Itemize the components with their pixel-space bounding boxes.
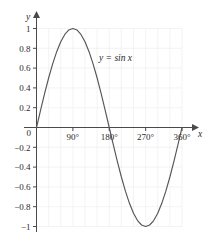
y-tick-label: 0.8 [19, 44, 31, 54]
chart-canvas: 90°180°270°360° 10.80.60.40.2−0.2−0.4−0.… [0, 0, 210, 237]
x-tick-label: 270° [137, 132, 155, 142]
x-tick-label: 360° [173, 132, 191, 142]
y-tick-label: −0.6 [14, 182, 31, 192]
y-tick-label: −0.4 [14, 162, 31, 172]
x-tick-label: 90° [67, 132, 80, 142]
y-tick-label: 0.6 [19, 63, 31, 73]
y-tick-label: 1 [26, 24, 31, 34]
y-tick-label: 0.2 [19, 103, 30, 113]
x-axis-label: x [197, 129, 203, 139]
y-axis-arrow-icon [33, 11, 40, 18]
y-tick-label: 0.4 [19, 83, 31, 93]
curve-equation-annotation: y = sin x [98, 53, 133, 63]
y-axis-label: y [25, 12, 31, 22]
origin-label: 0 [27, 128, 32, 138]
y-tick-label: −0.8 [14, 202, 31, 212]
y-tick-label: −0.2 [14, 143, 30, 153]
x-tick-label: 180° [101, 132, 119, 142]
y-tick-label: −1 [21, 222, 31, 232]
sine-graph-figure: 90°180°270°360° 10.80.60.40.2−0.2−0.4−0.… [0, 0, 210, 237]
x-axis-tick-marks [73, 128, 182, 132]
